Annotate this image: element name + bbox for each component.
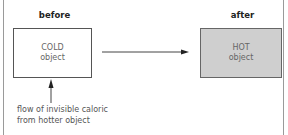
caloric-flow-arrow-icon: [49, 79, 54, 103]
transition-arrow-icon: [102, 50, 189, 55]
caloric-flow-caption: flow of invisible caloric from hotter ob…: [17, 104, 108, 126]
caption-line1: flow of invisible caloric: [17, 104, 108, 115]
caption-line2: from hotter object: [17, 115, 108, 126]
